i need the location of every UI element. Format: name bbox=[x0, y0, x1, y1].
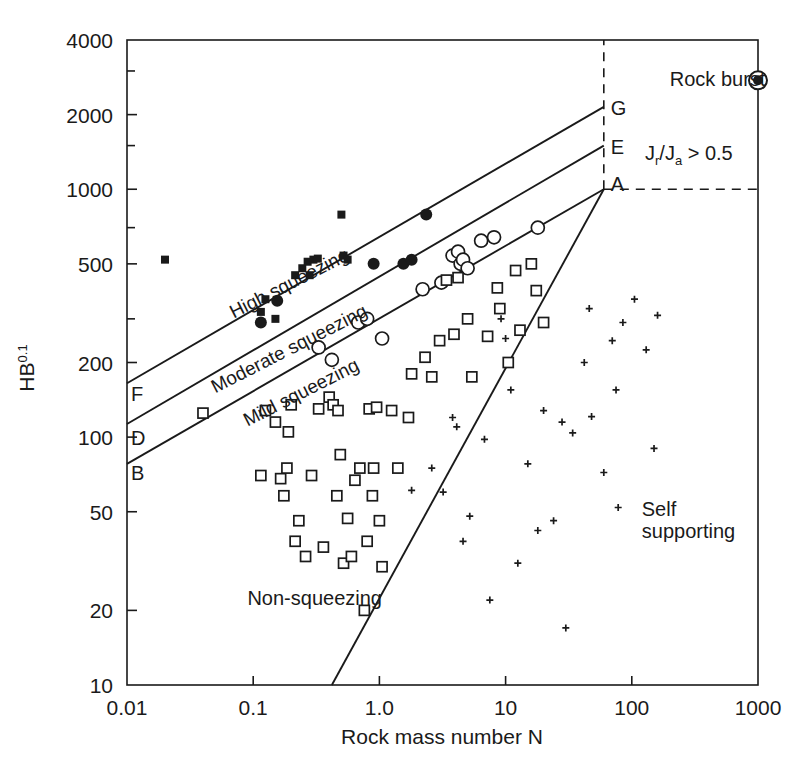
data-point bbox=[282, 463, 292, 473]
data-point bbox=[256, 471, 266, 481]
data-point bbox=[515, 325, 525, 335]
data-point bbox=[526, 259, 536, 269]
data-point bbox=[481, 436, 488, 443]
data-point bbox=[503, 358, 513, 368]
y-tick-label-1000: 1000 bbox=[66, 178, 113, 201]
data-point bbox=[581, 359, 588, 366]
y-tick-label-500: 500 bbox=[78, 253, 113, 276]
data-point bbox=[441, 275, 451, 285]
data-point bbox=[488, 231, 501, 244]
data-point bbox=[333, 406, 343, 416]
data-point bbox=[279, 491, 289, 501]
self-supporting-line2: supporting bbox=[642, 520, 735, 542]
y-axis-title: HB0.1 bbox=[15, 344, 38, 391]
line-F-G bbox=[127, 107, 604, 383]
data-point bbox=[475, 234, 488, 247]
data-point bbox=[609, 337, 616, 344]
data-point bbox=[276, 474, 286, 484]
data-point bbox=[550, 517, 557, 524]
data-point bbox=[466, 513, 473, 520]
data-point bbox=[534, 527, 541, 534]
node-F: F bbox=[131, 383, 143, 405]
data-point bbox=[407, 369, 417, 379]
x-tick-label-1.0: 1.0 bbox=[365, 696, 394, 719]
data-point bbox=[301, 551, 311, 561]
data-point bbox=[613, 386, 620, 393]
data-point bbox=[255, 317, 267, 329]
series-plus bbox=[408, 296, 661, 632]
plot-frame bbox=[127, 40, 758, 685]
self-supporting-line1: Self bbox=[642, 498, 677, 520]
data-point bbox=[355, 463, 365, 473]
node-labels: GEAFDB bbox=[131, 97, 626, 485]
data-point bbox=[377, 562, 387, 572]
y-tick-label-100: 100 bbox=[78, 426, 113, 449]
data-point bbox=[511, 266, 521, 276]
data-point bbox=[294, 516, 304, 526]
data-point bbox=[368, 258, 380, 270]
data-point bbox=[335, 450, 345, 460]
data-point bbox=[403, 412, 413, 422]
data-point bbox=[586, 305, 593, 312]
data-point bbox=[651, 445, 658, 452]
x-axis-ticks bbox=[253, 676, 632, 685]
data-point bbox=[427, 372, 437, 382]
data-point bbox=[290, 536, 300, 546]
data-point bbox=[198, 408, 208, 418]
y-tick-label-2000: 2000 bbox=[66, 104, 113, 127]
x-tick-label-0.01: 0.01 bbox=[107, 696, 148, 719]
data-point bbox=[562, 624, 569, 631]
jr-ja-annotation: Jr/Ja > 0.5 bbox=[645, 142, 733, 168]
x-tick-label-100: 100 bbox=[614, 696, 649, 719]
y-tick-label-50: 50 bbox=[90, 501, 113, 524]
data-point bbox=[460, 538, 467, 545]
node-A: A bbox=[611, 173, 625, 195]
data-point bbox=[539, 318, 549, 328]
data-point bbox=[615, 504, 622, 511]
y-axis-title-text: HB0.1 bbox=[15, 344, 38, 391]
data-point bbox=[408, 487, 415, 494]
data-point bbox=[524, 460, 531, 467]
data-point bbox=[453, 273, 463, 283]
data-point bbox=[332, 491, 342, 501]
x-tick-label-0.1: 0.1 bbox=[239, 696, 268, 719]
non-squeezing: Non-squeezing bbox=[247, 587, 382, 609]
data-point bbox=[393, 463, 403, 473]
data-point bbox=[314, 404, 324, 414]
data-point bbox=[654, 312, 661, 319]
data-point bbox=[486, 597, 493, 604]
chart-figure: 0.010.11.0101001000 10205010020050010002… bbox=[0, 0, 802, 778]
y-axis-tick-labels: 102050100200500100020004000 bbox=[66, 29, 113, 697]
data-point bbox=[367, 491, 377, 501]
data-point bbox=[463, 314, 473, 324]
data-point bbox=[467, 372, 477, 382]
data-point bbox=[374, 516, 384, 526]
y-tick-label-4000: 4000 bbox=[66, 29, 113, 52]
data-point bbox=[318, 542, 328, 552]
data-point bbox=[420, 209, 432, 221]
data-point bbox=[271, 315, 279, 323]
data-point bbox=[337, 211, 345, 219]
node-B: B bbox=[131, 462, 144, 484]
data-point bbox=[502, 335, 509, 342]
data-point bbox=[600, 469, 607, 476]
data-point bbox=[540, 407, 547, 414]
data-point bbox=[428, 465, 435, 472]
data-point bbox=[643, 346, 650, 353]
data-point bbox=[449, 329, 459, 339]
data-point bbox=[440, 489, 447, 496]
data-point bbox=[531, 286, 541, 296]
data-point bbox=[435, 336, 445, 346]
x-axis-tick-labels: 0.010.11.0101001000 bbox=[107, 696, 782, 719]
jr-ja-text: Jr/Ja > 0.5 bbox=[645, 142, 733, 168]
y-tick-label-200: 200 bbox=[78, 352, 113, 375]
data-point bbox=[416, 283, 429, 296]
node-D: D bbox=[131, 427, 145, 449]
node-E: E bbox=[611, 136, 624, 158]
data-point bbox=[307, 471, 317, 481]
data-point bbox=[495, 304, 505, 314]
data-point bbox=[369, 463, 379, 473]
x-tick-label-1000: 1000 bbox=[735, 696, 782, 719]
data-point bbox=[498, 315, 505, 322]
x-axis-title: Rock mass number N bbox=[341, 725, 543, 748]
